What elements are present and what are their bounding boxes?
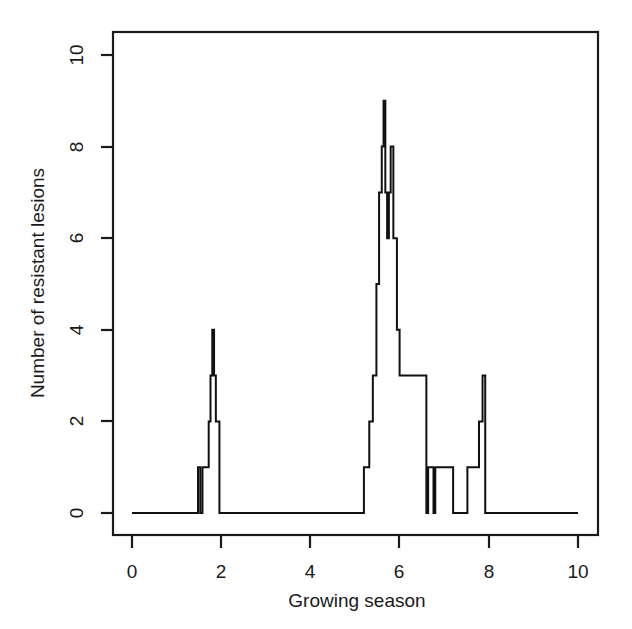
y-axis-title: Number of resistant lesions [27,168,48,398]
y-tick-label-2: 2 [66,416,87,427]
x-tick-label-10: 10 [567,561,588,582]
y-tick-label-10: 10 [66,44,87,65]
y-tick-label-0: 0 [66,508,87,519]
chart-figure: Number of resistant lesions Growing seas… [0,0,632,629]
x-tick-label-0: 0 [127,561,138,582]
data-series-line [132,101,578,513]
y-tick-label-6: 6 [66,233,87,244]
x-tick-label-4: 4 [305,561,316,582]
x-tick-label-2: 2 [216,561,227,582]
x-axis-title: Growing season [288,590,425,611]
y-tick-label-8: 8 [66,142,87,153]
x-tick-label-6: 6 [394,561,405,582]
y-tick-label-4: 4 [66,324,87,335]
step-plot-svg: Number of resistant lesions Growing seas… [0,0,632,629]
x-tick-label-8: 8 [484,561,495,582]
plot-frame [113,32,598,535]
